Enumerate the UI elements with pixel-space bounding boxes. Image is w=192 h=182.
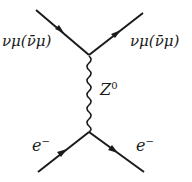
label-bottom-left: e− (32, 136, 50, 155)
feynman-diagram (0, 0, 192, 182)
electron-charge: − (41, 136, 49, 147)
label-z-boson: Z0 (100, 80, 118, 99)
label-bottom-right: e− (136, 136, 154, 155)
z-boson-charge: 0 (111, 80, 117, 91)
z-boson-propagator (87, 56, 91, 132)
z-boson-symbol: Z (100, 80, 111, 99)
label-top-left: νμ(ν̄μ) (2, 32, 51, 50)
label-top-right: νμ(ν̄μ) (130, 32, 179, 50)
electron-charge: − (145, 136, 153, 147)
